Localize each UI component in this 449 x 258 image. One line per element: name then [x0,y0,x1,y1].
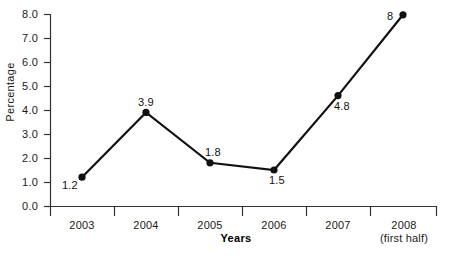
x-tick-label-2004: 2004 [114,219,178,231]
x-tick-label-2006: 2006 [242,219,306,231]
x-tick-label-2003: 2003 [50,219,114,231]
y-tick-label-8: 8.0 [4,8,38,20]
data-label-2006: 1.5 [269,174,285,186]
x-axis-ticks [51,206,437,216]
data-point-markers [78,11,406,181]
data-point-2005 [206,159,213,166]
data-point-2006 [270,166,277,173]
x-axis-title: Years [50,232,422,244]
x-tick-label-2008-year: 2008 [391,219,416,231]
data-label-2003: 1.2 [62,179,78,191]
y-tick-label-2: 2.0 [4,152,38,164]
line-chart: Percentage 8.0 7.0 6.0 5.0 4.0 3.0 2.0 1… [0,0,449,258]
y-tick-label-6: 6.0 [4,56,38,68]
data-label-2008: 8 [387,10,393,22]
data-point-2008 [399,11,406,18]
y-tick-label-0: 0.0 [4,200,38,212]
y-tick-label-4: 4.0 [4,104,38,116]
y-tick-label-1: 1.0 [4,176,38,188]
y-tick-label-5: 5.0 [4,80,38,92]
y-axis-ticks [44,15,50,207]
data-label-2005: 1.8 [205,146,221,158]
data-label-2007: 4.8 [334,100,350,112]
data-label-2004: 3.9 [138,96,154,108]
data-line-series [82,15,403,177]
data-point-2004 [142,109,149,116]
data-point-2007 [334,92,341,99]
x-tick-label-2005: 2005 [178,219,242,231]
y-tick-label-3: 3.0 [4,128,38,140]
x-tick-label-2007: 2007 [306,219,370,231]
data-point-2003 [78,174,85,181]
y-tick-label-7: 7.0 [4,32,38,44]
